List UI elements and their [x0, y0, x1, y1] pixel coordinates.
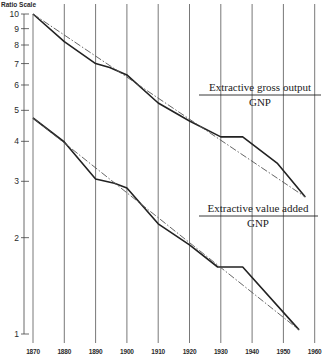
y-tick-label: 1 — [14, 329, 19, 339]
y-axis-title: Ratio Scale — [1, 1, 36, 8]
line-chart: 12345678910 1870188018901900191019201930… — [0, 0, 325, 357]
upper-label-numerator: Extractive gross output — [209, 81, 311, 93]
y-tick-label: 2 — [14, 233, 19, 243]
y-tick-label: 8 — [14, 40, 19, 50]
x-tick-label: 1870 — [26, 348, 40, 355]
y-axis: 12345678910 — [10, 9, 29, 339]
y-tick-label: 6 — [14, 80, 19, 90]
x-tick-label: 1910 — [151, 348, 165, 355]
x-tick-label: 1930 — [214, 348, 228, 355]
series-lines — [33, 14, 305, 330]
x-tick-label: 1900 — [120, 348, 134, 355]
y-tick-label: 7 — [14, 59, 19, 69]
x-tick-label: 1940 — [245, 348, 259, 355]
vertical-gridlines — [33, 4, 315, 343]
x-axis-labels: 1870188018901900191019201930194019501960 — [26, 348, 322, 355]
x-tick-label: 1920 — [183, 348, 197, 355]
x-tick-label: 1880 — [57, 348, 71, 355]
y-tick-label: 9 — [14, 24, 19, 34]
y-tick-label: 5 — [14, 105, 19, 115]
x-tick-label: 1950 — [277, 348, 291, 355]
lower-label-numerator: Extractive value added — [208, 202, 309, 214]
lower-label-denominator: GNP — [247, 217, 269, 229]
y-tick-label: 3 — [14, 176, 19, 186]
x-tick-label: 1890 — [89, 348, 103, 355]
lower-series-label: Extractive value added GNP — [199, 202, 318, 229]
y-tick-label: 4 — [14, 136, 19, 146]
x-tick-label: 1960 — [308, 348, 322, 355]
upper-series-label: Extractive gross output GNP — [199, 81, 321, 108]
y-tick-label: 10 — [10, 9, 20, 19]
upper-label-denominator: GNP — [249, 96, 271, 108]
